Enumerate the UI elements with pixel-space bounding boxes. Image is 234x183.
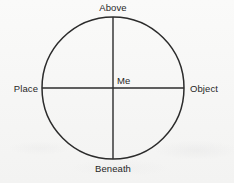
label-me-center: Me xyxy=(117,75,130,86)
label-object: Object xyxy=(190,83,218,94)
diagram-canvas: Above Beneath Place Object Me xyxy=(0,0,234,183)
label-above: Above xyxy=(99,2,126,13)
label-place: Place xyxy=(14,83,38,94)
label-beneath: Beneath xyxy=(95,163,131,174)
